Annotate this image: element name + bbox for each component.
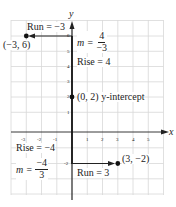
x-axis-arrow-icon	[161, 130, 169, 135]
rise-neg-label: Rise = −4	[16, 143, 55, 153]
x-tick: 4	[132, 137, 135, 142]
y-tick: 2	[67, 94, 70, 99]
y-tick: 6	[67, 33, 70, 38]
y-tick: 3	[67, 79, 70, 84]
point-label-3-neg2: (3, −2)	[122, 154, 149, 164]
x-axis-label: x	[169, 127, 173, 137]
y-axis-arrow-icon	[70, 21, 75, 29]
y-tick: 1	[67, 110, 70, 115]
run-arrow-right-icon	[108, 161, 115, 166]
y-tick: -2	[64, 161, 68, 166]
x-tick: 5	[147, 137, 150, 142]
point-3-neg2	[115, 161, 120, 166]
x-tick: 2	[101, 137, 104, 142]
x-tick: 3	[116, 137, 119, 142]
y-tick: 4	[67, 64, 70, 69]
slope-formula-1: m = 4−3	[77, 31, 107, 53]
point-label-0-2: (0, 2) y-intercept	[77, 92, 144, 102]
y-axis-label: y	[69, 9, 73, 19]
y-tick: 5	[67, 49, 70, 54]
run-neg-label: Run = −3	[27, 22, 65, 32]
run-arrow-left-icon	[28, 34, 35, 39]
x-tick: 1	[86, 137, 89, 142]
run-pos-label: Run = 3	[77, 168, 109, 178]
point-label-neg3-6: (−3, 6)	[3, 40, 30, 50]
slope-formula-2: m = −43	[16, 158, 48, 180]
rise-pos-label: Rise = 4	[77, 57, 110, 67]
point-0-2	[70, 95, 75, 100]
point-neg3-6	[24, 34, 29, 39]
